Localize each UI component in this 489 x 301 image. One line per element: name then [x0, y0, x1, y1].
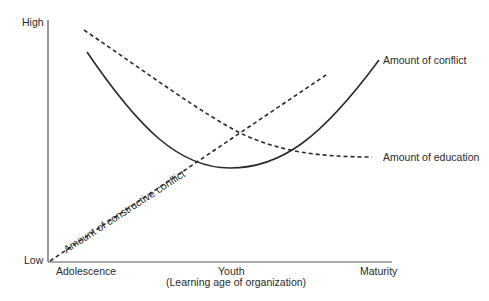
education-curve: [84, 30, 372, 157]
education-series-label: Amount of education: [383, 151, 479, 163]
y-axis-high-label: High: [22, 16, 44, 28]
conflict-series-label: Amount of conflict: [383, 54, 466, 66]
x-axis-start-label: Adolescence: [56, 265, 116, 277]
x-axis-end-label: Maturity: [360, 265, 397, 277]
x-axis-caption: (Learning age of organization): [166, 276, 306, 288]
conflict-curve: [87, 52, 379, 168]
y-axis-low-label: Low: [24, 254, 43, 266]
